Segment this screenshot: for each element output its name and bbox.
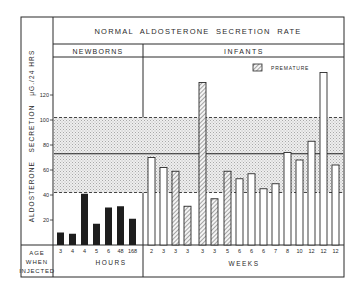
- infant-bar-premature: [199, 83, 206, 246]
- infant-age-label: 5: [226, 248, 229, 254]
- newborn-bar: [93, 224, 100, 245]
- infant-bar: [320, 73, 327, 246]
- y-tick-label: 120: [40, 92, 49, 98]
- infant-age-label: 3: [213, 248, 216, 254]
- infant-age-label: 12: [332, 248, 338, 254]
- infant-bar: [284, 153, 291, 246]
- newborn-age-label: 168: [128, 248, 137, 254]
- infant-age-label: 6: [262, 248, 265, 254]
- newborn-bar: [81, 194, 88, 245]
- age-label-line2: WHEN: [26, 259, 48, 265]
- infant-age-label: 10: [296, 248, 302, 254]
- infant-age-label: 6: [250, 248, 253, 254]
- newborn-age-label: 6: [107, 248, 110, 254]
- infant-bar: [308, 141, 315, 245]
- newborn-age-label: 48: [117, 248, 123, 254]
- infant-bar: [148, 158, 155, 246]
- infant-bar: [332, 165, 339, 245]
- x-axis-tick-labels: 344564816823333356667810121212: [59, 248, 339, 254]
- age-label-line3: INJECTED: [19, 268, 55, 274]
- infant-age-label: 7: [274, 248, 277, 254]
- y-tick-label: 40: [43, 192, 49, 198]
- y-tick-label: 20: [43, 217, 49, 223]
- infant-age-label: 2: [150, 248, 153, 254]
- section-label-infants: INFANTS: [224, 48, 264, 55]
- aldosterone-chart: NORMAL ALDOSTERONE SECRETION RATE NEWBOR…: [0, 0, 364, 295]
- infant-age-label: 12: [320, 248, 326, 254]
- y-axis-ticks: 20406080100120: [40, 92, 53, 223]
- infant-bar: [236, 179, 243, 245]
- infant-bar-premature: [184, 206, 191, 245]
- newborn-bar: [57, 233, 64, 246]
- newborn-bar: [129, 219, 136, 245]
- infant-age-label: 6: [238, 248, 241, 254]
- newborn-bar: [105, 208, 112, 246]
- y-axis-label: ALDOSTERONE SECRETION μG./24 HRS: [28, 50, 36, 223]
- newborn-age-label: 4: [83, 248, 86, 254]
- infant-bar-premature: [224, 171, 231, 245]
- legend: PREMATURE: [253, 64, 309, 71]
- y-tick-label: 100: [40, 117, 49, 123]
- infant-bar: [248, 174, 255, 245]
- infant-age-label: 3: [174, 248, 177, 254]
- infant-bar: [260, 189, 267, 245]
- infant-bar: [272, 184, 279, 245]
- infant-bar-premature: [211, 199, 218, 245]
- infant-bar: [160, 168, 167, 246]
- newborn-bar: [69, 234, 76, 245]
- newborn-age-label: 3: [59, 248, 62, 254]
- legend-premature-swatch: [253, 64, 262, 71]
- infant-age-label: 3: [186, 248, 189, 254]
- newborn-bar: [117, 206, 124, 245]
- infant-age-label: 12: [308, 248, 314, 254]
- infant-bar-premature: [172, 171, 179, 245]
- newborn-age-label: 4: [71, 248, 74, 254]
- infant-age-label: 3: [201, 248, 204, 254]
- age-label-line1: AGE: [29, 250, 45, 256]
- legend-premature-label: PREMATURE: [271, 65, 309, 71]
- newborn-bars: [57, 194, 136, 245]
- infant-bar: [296, 160, 303, 245]
- section-label-newborns: NEWBORNS: [73, 48, 124, 55]
- y-tick-label: 60: [43, 167, 49, 173]
- y-tick-label: 80: [43, 142, 49, 148]
- infant-age-label: 8: [286, 248, 289, 254]
- hours-unit-label: HOURS: [96, 259, 127, 266]
- weeks-unit-label: WEEKS: [229, 260, 260, 267]
- infant-age-label: 3: [162, 248, 165, 254]
- newborn-age-label: 5: [95, 248, 98, 254]
- chart-title: NORMAL ALDOSTERONE SECRETION RATE: [95, 27, 302, 36]
